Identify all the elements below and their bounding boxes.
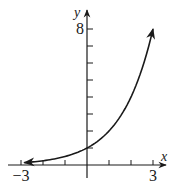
y-tick-labels: 8 [76, 20, 84, 37]
y-axis-ticks [87, 29, 93, 148]
x-tick-labels: −33 [12, 167, 157, 183]
y-axis-label: y [72, 5, 81, 20]
x-tick-label: 3 [149, 167, 157, 183]
y-axis: y 8 [72, 5, 93, 178]
exponential-curve [24, 29, 153, 163]
x-axis: x −33 [8, 149, 168, 183]
exponential-graph: x −33 y 8 [0, 0, 173, 183]
x-tick-label: −3 [12, 167, 29, 183]
y-tick-label: 8 [76, 20, 84, 37]
x-axis-label: x [160, 149, 168, 164]
